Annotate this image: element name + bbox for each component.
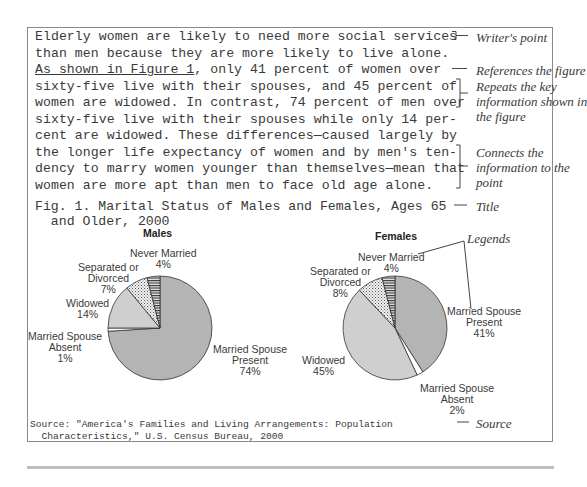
females-pie-chart [343,276,447,380]
males-pie-chart [108,276,212,380]
section-divider [27,466,554,469]
